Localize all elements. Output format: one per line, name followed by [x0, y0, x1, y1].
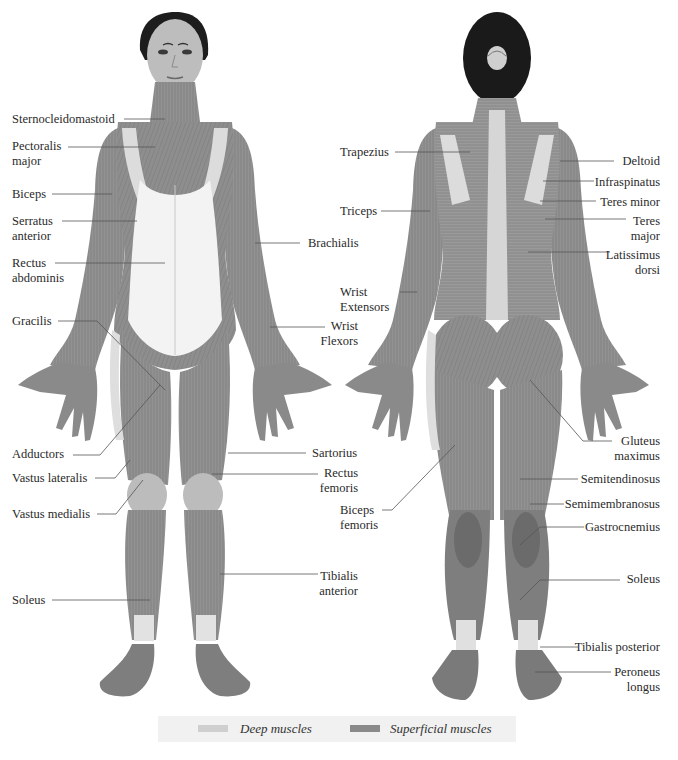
label-soleus: Soleus — [600, 572, 660, 587]
superficial-muscles-label: Superficial muscles — [390, 721, 491, 737]
label-biceps-femoris: Biceps femoris — [340, 503, 378, 533]
label-tibialis-posterior: Tibialis posterior — [560, 640, 660, 655]
label-rectus-femoris: Rectus femoris — [300, 466, 358, 496]
label-biceps: Biceps — [12, 187, 46, 202]
label-sternocleidomastoid: Sternocleidomastoid — [12, 112, 115, 127]
label-vastus-lateralis: Vastus lateralis — [12, 471, 87, 486]
label-gastrocnemius: Gastrocnemius — [570, 520, 660, 535]
label-trapezius: Trapezius — [340, 145, 389, 160]
label-teres-major: Teres major — [600, 214, 660, 244]
legend: Deep muscles Superficial muscles — [158, 716, 516, 742]
deep-muscles-label: Deep muscles — [240, 721, 312, 737]
back-figure — [345, 12, 649, 700]
label-soleus: Soleus — [12, 593, 45, 608]
label-latissimus-dorsi: Latissimus dorsi — [590, 248, 660, 278]
label-teres-minor: Teres minor — [580, 195, 660, 210]
label-sartorius: Sartorius — [312, 446, 357, 461]
label-semitendinosus: Semitendinosus — [560, 472, 660, 487]
deep-muscles-swatch — [198, 725, 228, 732]
label-adductors: Adductors — [12, 447, 64, 462]
label-tibialis-anterior: Tibialis anterior — [300, 569, 358, 599]
label-gluteus-maximus: Gluteus maximus — [600, 434, 660, 464]
label-rectus-abdominis: Rectus abdominis — [12, 256, 64, 286]
label-triceps: Triceps — [340, 204, 377, 219]
label-serratus-anterior: Serratus anterior — [12, 214, 53, 244]
label-semimembranosus: Semimembranosus — [550, 497, 660, 512]
label-pectoralis-major: Pectoralis major — [12, 139, 61, 169]
label-gracilis: Gracilis — [12, 314, 52, 329]
label-brachialis: Brachialis — [308, 236, 359, 251]
label-peroneus-longus: Peroneus longus — [600, 665, 660, 695]
label-wrist-flexors: Wrist Flexors — [300, 319, 358, 349]
label-deltoid: Deltoid — [600, 154, 660, 169]
label-wrist-extensors: Wrist Extensors — [340, 285, 389, 315]
label-infraspinatus: Infraspinatus — [580, 175, 660, 190]
label-vastus-medialis: Vastus medialis — [12, 507, 90, 522]
superficial-muscles-swatch — [350, 725, 380, 732]
